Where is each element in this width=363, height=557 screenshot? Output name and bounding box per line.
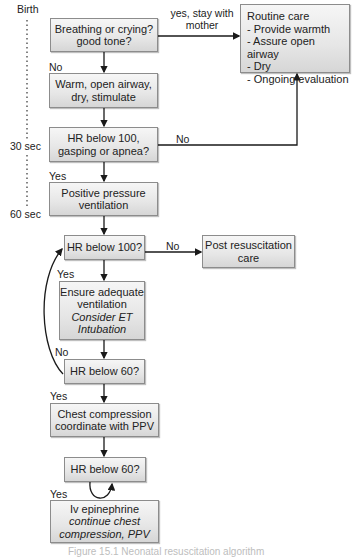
node-iv-epinephrine: Iv epinephrine continue chest compressio… — [50, 500, 159, 543]
node-post-resuscitation-care: Post resuscitation care — [202, 235, 295, 268]
node-text: HR below 100? — [67, 241, 142, 254]
node-text: coordinate with PPV — [55, 420, 154, 433]
node-text: Warm, open airway, — [55, 78, 152, 91]
edge-label-line: yes, stay with — [168, 7, 236, 19]
routine-care-item: - Assure open airway — [247, 35, 349, 60]
timeline-60sec-label: 60 sec — [10, 208, 41, 220]
node-text: Post resuscitation — [205, 239, 292, 252]
node-positive-pressure-ventilation: Positive pressure ventilation — [49, 182, 158, 216]
node-text: HR below 60? — [70, 463, 139, 476]
node-text-italic: Consider ET — [71, 311, 132, 324]
node-text: Positive pressure — [61, 187, 145, 200]
node-text: HR below 100, — [67, 132, 139, 145]
node-text-italic: compression, PPV — [59, 528, 149, 541]
timeline-30sec-label: 30 sec — [10, 140, 41, 152]
edge-label-yes-chest: Yes — [50, 390, 67, 402]
edge-label-no-hr100: No — [176, 133, 189, 145]
node-text: Ensure adequate — [60, 286, 144, 299]
edge-label-yes-stay-with-mother: yes, stay with mother — [168, 7, 236, 31]
node-text-italic: Intubation — [78, 323, 126, 336]
routine-care-title: Routine care — [247, 10, 309, 23]
routine-care-item: - Dry — [247, 60, 271, 73]
node-text: Breathing or crying? — [55, 23, 153, 36]
node-hr-below-60-first: HR below 60? — [64, 359, 145, 384]
node-text: ventilation — [77, 298, 127, 311]
node-text: gasping or apnea? — [58, 145, 149, 158]
routine-care-item: - Ongoing evaluation — [247, 73, 349, 86]
node-text: good tone? — [76, 35, 131, 48]
node-text: care — [238, 252, 259, 265]
node-chest-compression: Chest compression coordinate with PPV — [50, 403, 159, 437]
edge-label-yes-epinephrine: Yes — [50, 488, 67, 500]
node-text-italic: continue chest — [69, 515, 140, 528]
edge-label-yes-ensure: Yes — [57, 268, 74, 280]
routine-care-item: - Provide warmth — [247, 23, 330, 36]
edge-label-yes-hr100: Yes — [49, 170, 66, 182]
node-hr-below-100: HR below 100? — [64, 235, 145, 260]
node-text: Iv epinephrine — [70, 503, 139, 516]
node-hr-below-60-second: HR below 60? — [64, 457, 146, 482]
node-ensure-adequate-ventilation: Ensure adequate ventilation Consider ET … — [59, 281, 145, 340]
node-warm-open-airway: Warm, open airway, dry, stimulate — [49, 73, 158, 108]
node-hr-below-100-gasping: HR below 100, gasping or apnea? — [49, 127, 158, 162]
node-routine-care: Routine care - Provide warmth - Assure o… — [240, 4, 350, 73]
edge-label-no-breathing: No — [49, 61, 62, 73]
node-breathing-crying: Breathing or crying? good tone? — [50, 18, 158, 52]
edge-label-no-post-resus: No — [166, 240, 179, 252]
node-text: dry, stimulate — [71, 91, 136, 104]
edge-label-line: mother — [168, 19, 236, 31]
figure-caption: Figure 15.1 Neonatal resuscitation algor… — [68, 546, 264, 557]
edge-label-no-loop: No — [55, 346, 68, 358]
timeline-birth-label: Birth — [17, 3, 39, 15]
node-text: HR below 60? — [70, 365, 139, 378]
node-text: Chest compression — [57, 408, 151, 421]
node-text: ventilation — [79, 199, 129, 212]
